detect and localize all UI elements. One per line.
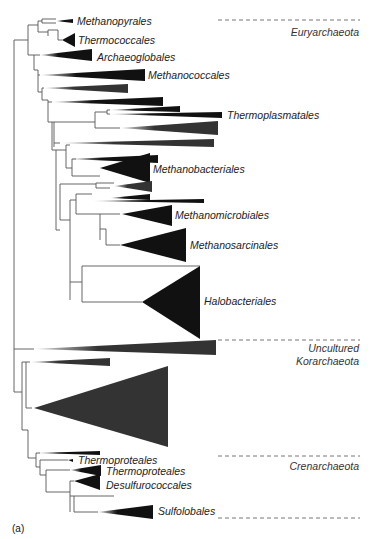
clade-wedge-unlabeled-3 [110, 106, 180, 112]
clade-wedge-unlabeled-6 [114, 181, 152, 192]
clade-wedge-unlabeled-9 [30, 358, 110, 366]
group-label-crenarchaeota: Crenarchaeota [290, 460, 360, 472]
label-thermococcales: Thermococcales [78, 34, 156, 46]
clade-wedge-thermoproteales-2 [70, 465, 101, 476]
group-label-uncultured: Uncultured [308, 342, 360, 354]
label-desulfurococcales: Desulfurococcales [106, 479, 193, 491]
clade-wedge-unlabeled-1 [44, 84, 128, 93]
clade-wedge-large-uncultured [34, 366, 168, 447]
group-label-korarchaeota: Korarchaeota [296, 355, 359, 367]
clade-wedge-korarchaeota [34, 340, 216, 355]
label-methanomicrobiales: Methanomicrobiales [175, 209, 270, 221]
panel-label: (a) [12, 523, 24, 534]
label-halobacteriales: Halobacteriales [204, 295, 277, 307]
label-methanopyrales: Methanopyrales [77, 15, 152, 27]
tree-branches [14, 19, 200, 512]
clade-wedge-methanomicrobiales [122, 205, 172, 226]
clade-wedge-desulfurococcales [74, 474, 100, 490]
clade-wedge-thermoproteales-1 [68, 459, 73, 462]
clade-wedge-methanopyrales [56, 19, 73, 23]
phylogenetic-tree: Methanopyrales Thermococcales Archaeoglo… [0, 0, 373, 539]
label-methanosarcinales: Methanosarcinales [190, 239, 279, 251]
collapsed-clades [30, 19, 222, 519]
clade-wedge-methanosarcinales [120, 228, 186, 262]
group-label-euryarchaeota: Euryarchaeota [291, 26, 359, 38]
clade-wedge-halobacteriales [142, 266, 200, 339]
label-methanobacteriales: Methanobacteriales [153, 163, 245, 175]
clade-wedge-thermoplasmatales [110, 112, 222, 118]
label-thermoplasmatales: Thermoplasmatales [227, 109, 320, 121]
label-methanococcales: Methanococcales [148, 69, 230, 81]
clade-wedge-thermococcales [62, 33, 75, 47]
clade-wedge-archaeoglobales [40, 49, 92, 61]
clade-wedge-unlabeled-2 [52, 97, 163, 106]
label-archaeoglobales: Archaeoglobales [96, 51, 176, 63]
clade-wedge-methanococcales [40, 69, 145, 81]
group-labels: Euryarchaeota Uncultured Korarchaeota Cr… [290, 26, 361, 472]
label-thermoproteales-2: Thermoproteales [106, 465, 186, 477]
clade-wedge-unlabeled-4 [60, 139, 214, 147]
clade-wedge-thermoplasmatales-2 [120, 121, 218, 135]
clade-wedge-sulfolobales [98, 505, 153, 519]
clade-wedge-unlabeled-7 [110, 194, 150, 200]
label-sulfolobales: Sulfolobales [158, 505, 216, 517]
group-dividers [218, 20, 360, 518]
